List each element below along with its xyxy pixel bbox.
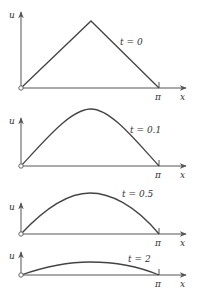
time-label: t = 2 (128, 254, 151, 264)
pi-label: π (154, 170, 162, 180)
panel-t0.5: u t = 0.5 π x (9, 189, 186, 248)
solution-curve (21, 21, 159, 88)
origin-marker (19, 164, 23, 168)
panel-t2: u t = 2 π x (9, 251, 186, 289)
u-axis-label: u (9, 10, 15, 20)
panel-t0.1: u t = 0.1 π x (9, 109, 186, 180)
origin-marker (19, 273, 23, 277)
panel-t0: u t = 0 π x (9, 10, 186, 102)
u-axis-label: u (9, 251, 15, 261)
u-axis-label: u (9, 116, 15, 126)
solution-curve (21, 193, 159, 234)
time-label: t = 0.1 (130, 125, 161, 135)
x-axis-label: x (180, 170, 185, 180)
time-label: t = 0.5 (122, 189, 153, 199)
pi-label: π (154, 238, 162, 248)
x-axis-label: x (180, 279, 185, 289)
x-axis-label: x (180, 238, 185, 248)
origin-marker (19, 86, 23, 90)
x-axis-label: x (180, 92, 185, 102)
heat-equation-figure: u t = 0 π x u t = 0.1 π x u t = 0.5 π x … (0, 0, 198, 296)
solution-curve (21, 109, 159, 166)
u-axis-label: u (9, 202, 15, 212)
origin-marker (19, 232, 23, 236)
pi-label: π (154, 92, 162, 102)
time-label: t = 0 (120, 37, 143, 47)
pi-label: π (154, 279, 162, 289)
